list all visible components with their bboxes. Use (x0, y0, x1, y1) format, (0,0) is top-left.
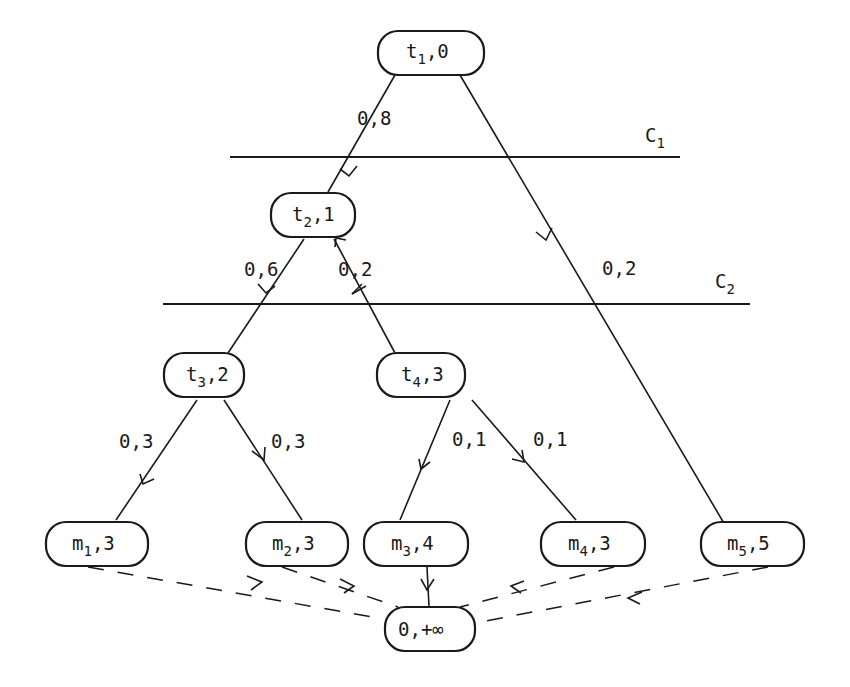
edge-t3-m1: 0,3 (116, 400, 197, 520)
arrow-icon (512, 450, 524, 462)
edge-label: 0,1 (452, 428, 486, 450)
edge-label: 0,6 (244, 258, 278, 280)
node-m4: m4,3 (541, 522, 645, 566)
edge-m2-sink (282, 567, 398, 607)
node-sink: 0,+∞ (385, 607, 475, 651)
node-t1: t1,0 (378, 31, 484, 75)
edge-t2-t4: 0,2 (334, 238, 395, 353)
edge-label: 0,2 (338, 258, 372, 280)
arrow-icon (247, 576, 262, 590)
edge-t3-m2: 0,3 (224, 400, 305, 520)
edge-t1-t2: 0,8 (328, 75, 395, 192)
arrow-icon (628, 592, 642, 604)
node-m5: m5,5 (701, 522, 804, 566)
edge-label: 0,2 (602, 257, 636, 279)
edge-label: 0,8 (357, 107, 391, 129)
node-t2: t2,1 (271, 193, 355, 237)
flow-tree-diagram: C1 C2 0,8 0,2 0,6 0,2 0,3 0,3 0 (0, 0, 850, 687)
node-t3: t3,2 (164, 353, 244, 397)
cut-c1: C1 (230, 124, 680, 157)
node-sink-label: 0,+∞ (398, 618, 444, 640)
arrow-icon (536, 228, 552, 240)
node-t4: t4,3 (377, 353, 465, 397)
node-m2: m2,3 (246, 522, 348, 566)
edge-m5-sink (480, 567, 768, 622)
cut-c1-label: C1 (645, 124, 665, 151)
edge-label: 0,1 (533, 428, 567, 450)
edge-t1-m5: 0,2 (460, 75, 725, 525)
edge-m3-sink (421, 567, 434, 607)
edge-label: 0,3 (119, 430, 153, 452)
edge-m1-sink (88, 567, 378, 618)
cut-c2-label: C2 (715, 270, 735, 297)
edge-t4-m4: 0,1 (472, 400, 576, 520)
edge-t2-t3: 0,6 (228, 239, 304, 353)
edge-label: 0,3 (271, 430, 305, 452)
edge-t4-m3: 0,1 (400, 400, 486, 520)
node-m3: m3,4 (364, 522, 468, 566)
node-m1: m1,3 (46, 522, 148, 566)
